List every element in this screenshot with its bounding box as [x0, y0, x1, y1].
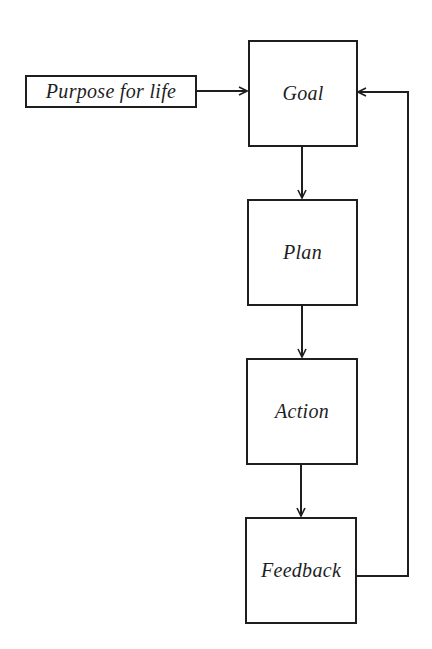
node-label: Plan: [283, 241, 322, 264]
node-label: Feedback: [261, 559, 341, 582]
node-label: Goal: [282, 82, 323, 105]
node-label: Purpose for life: [46, 80, 176, 103]
node-plan: Plan: [247, 199, 358, 306]
node-feedback: Feedback: [245, 517, 357, 624]
node-action: Action: [246, 358, 358, 465]
diagram-canvas: Purpose for life Goal Plan Action Feedba…: [0, 0, 432, 649]
node-purpose-for-life: Purpose for life: [25, 75, 197, 108]
node-label: Action: [275, 400, 329, 423]
arrow-feedback-to-goal: [356, 92, 408, 576]
node-goal: Goal: [248, 40, 358, 147]
